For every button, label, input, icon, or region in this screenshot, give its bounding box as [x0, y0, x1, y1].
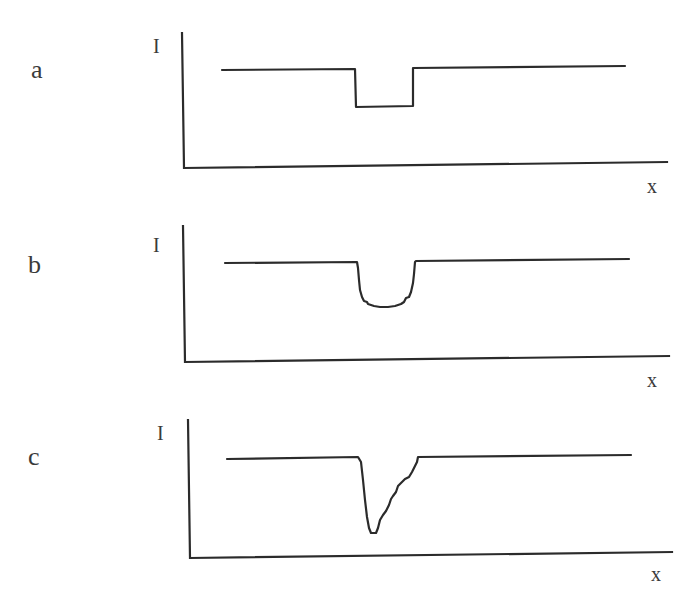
intensity-curve-a [222, 66, 625, 107]
panel-c: c I x [28, 420, 672, 585]
axes-c [188, 420, 672, 558]
axes-a [182, 33, 667, 168]
panel-label-a: a [31, 55, 43, 84]
x-axis-label-b: x [647, 369, 657, 391]
intensity-curve-b [225, 259, 629, 307]
panel-a: a I x [31, 33, 667, 197]
x-axis-label-a: x [647, 175, 657, 197]
y-axis-label-b: I [153, 234, 160, 256]
axes-b [183, 226, 669, 362]
y-axis-label-c: I [157, 422, 164, 444]
x-axis-label-c: x [651, 563, 661, 585]
intensity-profile-figure: a I x b I x c I x [0, 0, 694, 607]
panel-label-c: c [28, 442, 40, 471]
y-axis-label-a: I [153, 35, 160, 57]
intensity-curve-c [227, 455, 631, 533]
panel-b: b I x [28, 226, 669, 391]
panel-label-b: b [28, 250, 41, 279]
